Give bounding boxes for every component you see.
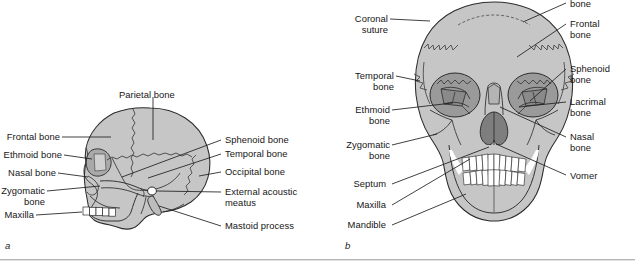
label-zygomatic-bone-b: Zygomatic bone [328, 139, 390, 161]
leader-zygomatic-b [392, 134, 437, 145]
label-parietal-bone: Parietal bone [119, 89, 175, 100]
label-lacrimal-bone-b: Lacrimal bone [570, 96, 606, 118]
label-frontal-bone: Frontal bone [0, 131, 60, 142]
label-zygomatic-bone: Zygomatic bone [0, 185, 45, 207]
skull-anatomy-figure: Parietal bone Frontal bone Ethmoid bone … [0, 0, 635, 267]
label-external-acoustic-meatus: External acoustic meatus [225, 186, 297, 208]
figure-bottom-rule-shadow [0, 260, 635, 261]
leader-nasal [58, 173, 88, 177]
label-occipital-bone: Occipital bone [225, 166, 285, 177]
panel-letter-a: a [5, 240, 10, 251]
label-mandible-b: Mandible [328, 219, 386, 230]
skull-illustrations [0, 0, 635, 267]
label-temporal-bone-b: Temporal bone [328, 70, 394, 92]
leader-coronal-suture [390, 19, 430, 21]
label-nasal-bone-b: Nasal bone [570, 131, 594, 153]
lateral-skull-drawing [83, 108, 210, 229]
label-sphenoid-bone: Sphenoid bone [225, 134, 289, 145]
leader-mastoid [159, 206, 221, 226]
leader-maxilla [36, 212, 82, 215]
label-ethmoid-bone-b: Ethmoid bone [328, 104, 390, 126]
lateral-orbit-inner [94, 154, 106, 171]
label-ethmoid-bone: Ethmoid bone [0, 149, 62, 160]
label-mastoid-process: Mastoid process [225, 220, 294, 231]
external-acoustic-meatus [148, 187, 157, 195]
label-vomer: Vomer [570, 170, 597, 181]
label-parietal-bone-b-clipped: bone [570, 0, 591, 9]
upper-teeth-lateral [83, 207, 116, 216]
nasal-bones [488, 84, 500, 104]
label-nasal-bone: Nasal bone [0, 167, 56, 178]
lower-teeth-anterior [463, 170, 525, 186]
label-sphenoid-bone-b: Sphenoid bone [570, 63, 610, 85]
label-maxilla-b: Maxilla [328, 199, 386, 210]
panel-letter-b: b [345, 240, 350, 251]
label-frontal-bone-b: Frontal bone [570, 18, 600, 40]
label-coronal-suture: Coronal suture [328, 13, 388, 35]
label-temporal-bone: Temporal bone [225, 148, 288, 159]
label-septum: Septum [328, 178, 386, 189]
label-maxilla: Maxilla [0, 209, 34, 220]
